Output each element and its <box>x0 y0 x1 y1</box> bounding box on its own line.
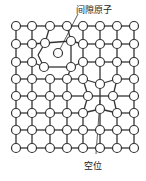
lattice-atom <box>79 109 88 118</box>
lattice-atom <box>12 40 21 49</box>
lattice-atom <box>28 22 37 31</box>
interstitial-atom-label: 间隙原子 <box>76 5 112 15</box>
lattice-atom <box>130 92 139 101</box>
lattice-atom <box>96 58 105 67</box>
lattice-atom <box>113 40 122 49</box>
lattice-atom <box>46 75 55 84</box>
interstitial-atom <box>54 49 63 58</box>
lattice-atom <box>130 126 139 135</box>
lattice-diagram <box>0 0 146 181</box>
lattice-atom <box>79 75 88 84</box>
lattice-atom <box>113 144 122 153</box>
lattice-atom <box>12 126 21 135</box>
lattice-atom <box>63 126 72 135</box>
lattice-atom <box>96 80 105 89</box>
lattice-atom <box>28 75 37 84</box>
lattice-atom <box>79 40 88 49</box>
lattice-atom <box>28 92 37 101</box>
lattice-atom <box>46 22 55 31</box>
lattice-atom <box>79 144 88 153</box>
lattice-atoms <box>12 22 139 153</box>
lattice-atom <box>46 92 55 101</box>
lattice-atom <box>84 92 93 101</box>
lattice-atom <box>46 144 55 153</box>
lattice-atom <box>12 109 21 118</box>
lattice-atom <box>113 126 122 135</box>
lattice-atom <box>109 92 118 101</box>
lattice-atom <box>63 144 72 153</box>
lattice-atom <box>113 22 122 31</box>
lattice-atom <box>12 144 21 153</box>
lattice-atom <box>28 126 37 135</box>
lattice-atom <box>67 37 76 46</box>
vacancy-label: 空位 <box>84 161 102 171</box>
lattice-atom <box>12 75 21 84</box>
lattice-atom <box>79 126 88 135</box>
lattice-atom <box>130 40 139 49</box>
lattice-atom <box>41 39 50 48</box>
lattice-atom <box>40 63 49 72</box>
lattice-atom <box>28 40 37 49</box>
lattice-atom <box>28 58 37 67</box>
lattice-atom <box>96 40 105 49</box>
lattice-atom <box>46 109 55 118</box>
lattice-atom <box>63 22 72 31</box>
lattice-atom <box>96 126 105 135</box>
lattice-atom <box>130 75 139 84</box>
lattice-atom <box>79 58 88 67</box>
lattice-atom <box>79 22 88 31</box>
lattice-atom <box>12 58 21 67</box>
lattice-atom <box>113 58 122 67</box>
lattice-atom <box>113 75 122 84</box>
lattice-atom <box>96 22 105 31</box>
lattice-atom <box>63 109 72 118</box>
lattice-atom <box>12 22 21 31</box>
lattice-atom <box>96 144 105 153</box>
lattice-atom <box>63 92 72 101</box>
lattice-atom <box>130 109 139 118</box>
lattice-atom <box>130 144 139 153</box>
lattice-atom <box>63 75 72 84</box>
lattice-atom <box>28 109 37 118</box>
lattice-atom <box>96 105 105 114</box>
lattice-atom <box>130 22 139 31</box>
lattice-atom <box>28 144 37 153</box>
lattice-atom <box>67 63 76 72</box>
lattice-atom <box>130 58 139 67</box>
lattice-atom <box>46 126 55 135</box>
lattice-atom <box>12 92 21 101</box>
lattice-atom <box>113 109 122 118</box>
